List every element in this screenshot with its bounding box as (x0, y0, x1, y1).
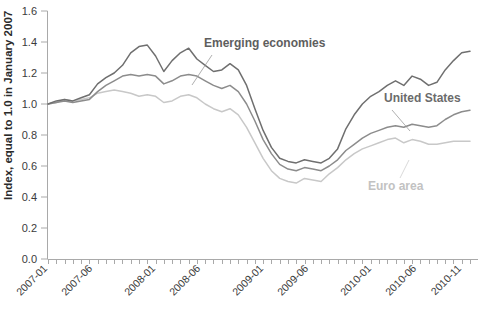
x-tick-label: 2007-01 (14, 262, 50, 298)
y-axis-title: Index, equal to 1.0 in January 2007 (2, 11, 14, 200)
x-axis-tick-labels: 2007-01 2007-06 2008-01 2008-06 2009-01 … (14, 262, 464, 298)
y-tick-label: 1.6 (22, 5, 37, 17)
y-tick-label: 0.0 (22, 253, 37, 265)
y-tick-label: 1.0 (22, 98, 37, 110)
leader-line-euro-area (400, 160, 409, 178)
x-tick-label: 2009-06 (275, 262, 311, 298)
y-tick-label: 0.8 (22, 129, 37, 141)
x-tick-label: 2009-01 (230, 262, 266, 298)
x-tick-label: 2010-06 (383, 262, 419, 298)
x-tick-label: 2007-06 (59, 262, 95, 298)
x-tick-label: 2008-01 (122, 262, 158, 298)
y-tick-label: 0.4 (22, 191, 37, 203)
x-tick-label: 2010-11 (428, 262, 463, 297)
series-lines-group (48, 45, 470, 183)
y-axis-tick-labels: 0.0 0.2 0.4 0.6 0.8 1.0 1.2 1.4 1.6 (22, 5, 37, 265)
y-tick-label: 1.2 (22, 67, 37, 79)
x-tick-label: 2010-01 (338, 262, 374, 298)
leader-line-united-states (392, 110, 410, 131)
annotation-euro-area: Euro area (368, 179, 424, 193)
annotation-leader-lines (192, 55, 410, 178)
y-axis-ticks (41, 11, 48, 259)
annotation-united-states: United States (384, 91, 461, 105)
y-tick-label: 0.6 (22, 160, 37, 172)
line-chart: 0.0 0.2 0.4 0.6 0.8 1.0 1.2 1.4 1.6 Inde… (0, 0, 485, 313)
y-tick-label: 0.2 (22, 222, 37, 234)
y-tick-label: 1.4 (22, 36, 37, 48)
chart-container: 0.0 0.2 0.4 0.6 0.8 1.0 1.2 1.4 1.6 Inde… (0, 0, 485, 313)
series-line-united-states (48, 75, 470, 171)
leader-line-emerging (192, 55, 212, 85)
annotation-emerging-economies: Emerging economies (204, 36, 326, 50)
x-tick-label: 2008-06 (167, 262, 203, 298)
